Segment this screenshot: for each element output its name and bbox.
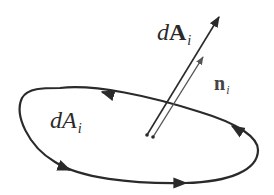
area-scalar-subscript: i xyxy=(78,120,82,136)
diagram-svg xyxy=(0,0,274,195)
area-vector-origin-dot xyxy=(145,133,149,137)
unit-normal-symbol: n xyxy=(214,72,225,94)
area-scalar-label: dAi xyxy=(50,108,82,135)
area-vector-prefix: d xyxy=(157,19,169,45)
loop-arrow-top xyxy=(102,92,112,95)
unit-normal-origin-dot xyxy=(151,135,155,139)
area-vector-symbol: A xyxy=(169,19,186,45)
unit-normal-arrow xyxy=(153,57,203,137)
area-vector-label: dAi xyxy=(157,20,191,47)
diagram-canvas: dAi ni dAi xyxy=(0,0,274,195)
area-scalar-symbol: A xyxy=(62,107,77,133)
unit-normal-subscript: i xyxy=(226,83,229,97)
area-vector-subscript: i xyxy=(187,32,191,48)
unit-normal-label: ni xyxy=(214,73,229,96)
area-scalar-prefix: d xyxy=(50,107,62,133)
